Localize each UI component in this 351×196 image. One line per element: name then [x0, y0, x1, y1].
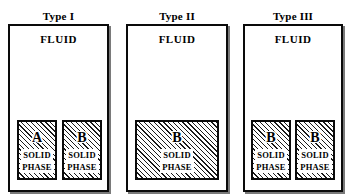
- panel-type-2-title: Type II: [126, 10, 228, 23]
- solid-box-type-1-b: B SOLID PHASE: [62, 120, 102, 180]
- phase-diagram-figure: Type I FLUID A SOLID PHASE B SOLID PHASE: [0, 0, 351, 196]
- panel-type-2-frame: FLUID B SOLID PHASE: [126, 24, 228, 192]
- solid-box-type-3-b2-line1: SOLID: [297, 151, 333, 161]
- solid-box-type-3-b1-line1: SOLID: [253, 151, 289, 161]
- panel-type-1-title: Type I: [8, 10, 109, 23]
- solid-box-type-3-b2-line2: PHASE: [297, 163, 333, 173]
- panel-type-2-fluid-label: FLUID: [128, 33, 226, 45]
- panel-type-3-title: Type III: [243, 10, 343, 23]
- panel-type-1-fluid-label: FLUID: [10, 33, 107, 45]
- panel-type-3-frame: FLUID B SOLID PHASE B SOLID PHASE: [243, 24, 343, 192]
- solid-box-type-2-b-line1: SOLID: [137, 151, 217, 161]
- solid-box-type-1-b-line1: SOLID: [64, 151, 100, 161]
- solid-box-type-1-a-line2: PHASE: [19, 163, 55, 173]
- solid-box-type-1-b-letter: B: [64, 131, 100, 145]
- solid-box-type-1-a-letter: A: [19, 131, 55, 145]
- panel-type-3-fluid-label: FLUID: [245, 33, 341, 45]
- solid-box-type-2-b-letter: B: [137, 131, 217, 145]
- panel-type-3: Type III FLUID B SOLID PHASE B SOLID PHA…: [243, 10, 343, 192]
- solid-box-type-3-b1-letter: B: [253, 131, 289, 145]
- panel-type-2: Type II FLUID B SOLID PHASE: [126, 10, 228, 192]
- solid-box-type-3-b1: B SOLID PHASE: [251, 120, 291, 180]
- solid-box-type-1-a: A SOLID PHASE: [17, 120, 57, 180]
- solid-box-type-1-b-line2: PHASE: [64, 163, 100, 173]
- solid-box-type-3-b2-letter: B: [297, 131, 333, 145]
- solid-box-type-3-b2: B SOLID PHASE: [295, 120, 335, 180]
- panel-type-1: Type I FLUID A SOLID PHASE B SOLID PHASE: [8, 10, 109, 192]
- panel-type-1-frame: FLUID A SOLID PHASE B SOLID PHASE: [8, 24, 109, 192]
- solid-box-type-3-b1-line2: PHASE: [253, 163, 289, 173]
- solid-box-type-1-a-line1: SOLID: [19, 151, 55, 161]
- solid-box-type-2-b-line2: PHASE: [137, 163, 217, 173]
- solid-box-type-2-b: B SOLID PHASE: [135, 120, 219, 180]
